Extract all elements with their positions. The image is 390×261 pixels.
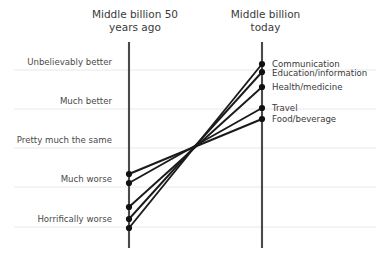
right-column-title: Middle billion today xyxy=(213,8,318,33)
marker-right-education-information xyxy=(259,69,265,75)
series-label-food-beverage: Food/beverage xyxy=(272,114,336,124)
series-label-health-medicine: Health/medicine xyxy=(272,82,342,92)
ytick-label: Unbelievably better xyxy=(27,57,112,67)
ytick-label: Much better xyxy=(60,96,112,106)
marker-right-travel xyxy=(259,105,265,111)
marker-left-food-beverage xyxy=(126,171,132,177)
series-label-travel: Travel xyxy=(272,103,298,113)
left-column-title: Middle billion 50 years ago xyxy=(80,8,190,33)
marker-right-food-beverage xyxy=(259,116,265,122)
ytick-label: Pretty much the same xyxy=(17,135,112,145)
marker-right-communication xyxy=(259,61,265,67)
ytick-label: Horrifically worse xyxy=(37,214,112,224)
series-label-education-information: Education/information xyxy=(272,68,367,78)
marker-left-education-information xyxy=(126,216,132,222)
marker-right-health-medicine xyxy=(259,84,265,90)
marker-left-communication xyxy=(126,225,132,231)
ytick-label: Much worse xyxy=(61,174,112,184)
marker-left-health-medicine xyxy=(126,204,132,210)
marker-left-travel xyxy=(126,180,132,186)
slope-chart: Middle billion 50 years ago Middle billi… xyxy=(0,0,390,261)
